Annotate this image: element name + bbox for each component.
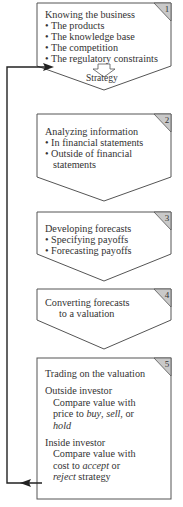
outside-line3: hold <box>45 420 145 431</box>
step-4-number: 4 <box>162 290 172 300</box>
accept-term: accept <box>82 460 109 471</box>
step-3-bullet: • Forecasting payoffs <box>45 245 132 256</box>
buy-term: buy <box>86 408 101 419</box>
step-4-title-line2: to a valuation <box>45 308 130 319</box>
inside-line2-post: or <box>109 460 120 471</box>
step-1-title: Knowing the business <box>45 9 158 20</box>
outside-line1: Compare value with <box>45 397 145 408</box>
step-3-text: Developing forecasts • Specifying payoff… <box>45 223 132 256</box>
step-1-text: Knowing the business • The products • Th… <box>45 9 158 64</box>
step-5-number: 5 <box>162 359 172 369</box>
step-5-title: Trading on the valuation <box>45 368 145 379</box>
inside-line2-pre: cost to <box>53 460 82 471</box>
step-2-bullet: • Outside of financial <box>45 148 143 159</box>
inside-line2: cost to accept or <box>45 460 145 471</box>
step-4-text: Converting forecasts to a valuation <box>45 297 130 319</box>
step-3-bullet: • Specifying payoffs <box>45 234 132 245</box>
step-4-title-line1: Converting forecasts <box>45 297 130 308</box>
inside-investor-heading: Inside investor <box>45 437 145 448</box>
step-3-title: Developing forecasts <box>45 223 132 234</box>
outside-line2-pre: price to <box>53 408 86 419</box>
outside-investor-heading: Outside investor <box>45 385 145 396</box>
inside-line3-post: strategy <box>76 471 111 482</box>
step-2-text: Analyzing information • In financial sta… <box>45 126 143 170</box>
step-1-number: 1 <box>162 4 172 14</box>
step-3-number: 3 <box>162 213 172 223</box>
step-2-number: 2 <box>162 115 172 125</box>
outside-line2: price to buy, sell, or <box>45 408 145 419</box>
step-2-bullet-cont: statements <box>45 159 143 170</box>
inside-line1: Compare value with <box>45 448 145 459</box>
reject-term: reject <box>53 471 76 482</box>
inside-line3: reject strategy <box>45 471 145 482</box>
step-1-bullet: • The regulatory constraints <box>45 53 158 64</box>
strategy-label: Strategy <box>86 73 118 84</box>
step-1-bullet: • The knowledge base <box>45 31 158 42</box>
step-1-bullet: • The competition <box>45 42 158 53</box>
sell-term: sell <box>106 408 120 419</box>
step-2-title: Analyzing information <box>45 126 143 137</box>
step-2-bullet: • In financial statements <box>45 137 143 148</box>
hold-term: hold <box>53 420 71 431</box>
step-1-bullet: • The products <box>45 20 158 31</box>
sep: , or <box>120 408 134 419</box>
step-5-text: Trading on the valuation Outside investo… <box>45 368 145 483</box>
